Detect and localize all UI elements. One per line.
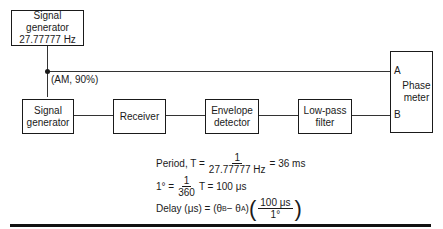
degree-numerator: 1	[182, 175, 192, 187]
receiver-block: Receiver	[113, 99, 166, 134]
wire-generator-receiver	[73, 115, 114, 116]
wire-detector-filter	[257, 115, 299, 116]
period-fraction: 1 27.77777 Hz	[207, 152, 268, 175]
degree-equation: 1° = 1 360 T = 100 μs	[156, 175, 246, 198]
top-signal-generator-block: Signal generator 27.77777 Hz	[11, 10, 84, 46]
left-paren: (	[249, 198, 256, 220]
period-equation: Period, T = 1 27.77777 Hz = 36 ms	[156, 152, 305, 175]
bottom-rule	[10, 224, 431, 227]
modulation-label: (AM, 90%)	[51, 74, 98, 85]
period-denominator: 27.77777 Hz	[207, 164, 268, 175]
phase-meter-block: Phase meter	[390, 51, 433, 133]
period-result: = 36 ms	[270, 158, 306, 169]
delay-minus: − θ	[227, 203, 241, 214]
delay-fraction: 100 μs 1°	[258, 197, 292, 220]
low-pass-filter-block: Low-pass filter	[298, 99, 352, 134]
wire-filter-b	[351, 115, 391, 116]
delay-numerator: 100 μs	[258, 197, 292, 209]
envelope-detector-block: Envelope detector	[205, 99, 259, 134]
signal-generator-block: Signal generator	[22, 99, 74, 134]
reference-wire-to-a	[48, 71, 390, 72]
period-numerator: 1	[232, 152, 242, 164]
delay-equation: Delay (μs) = (θB − θA) ( 100 μs 1° )	[156, 197, 302, 220]
period-prefix: Period, T =	[156, 158, 205, 169]
right-paren: )	[295, 198, 302, 220]
degree-fraction: 1 360	[176, 175, 197, 198]
input-b-label: B	[394, 109, 401, 120]
degree-prefix: 1° =	[156, 181, 174, 192]
junction-dot	[45, 69, 50, 74]
delay-denominator: 1°	[269, 209, 283, 220]
delay-prefix: Delay (μs) = (θ	[156, 203, 222, 214]
wire-receiver-detector	[165, 115, 206, 116]
degree-result: T = 100 μs	[199, 181, 247, 192]
input-a-label: A	[394, 65, 401, 76]
